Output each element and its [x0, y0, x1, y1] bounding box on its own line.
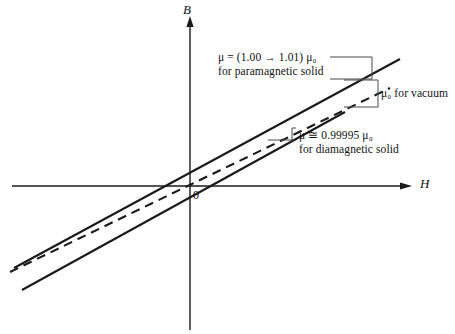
paramagnetic-annotation: μ = (1.00 → 1.01) μ₀ for paramagnetic so… — [218, 50, 324, 78]
diamagnetic-annotation-line2: for diamagnetic solid — [299, 142, 399, 156]
x-axis-arrowhead — [400, 182, 412, 189]
vacuum-annotation-line1: μ₀ for vacuum — [381, 86, 448, 100]
data-lines-group — [10, 59, 400, 290]
axes-group — [12, 16, 412, 330]
diamagnetic-line — [22, 112, 345, 290]
x-axis-label: H — [420, 176, 429, 192]
diamagnetic-annotation-line1: μ ≅ 0.99995 μ₀ — [299, 128, 399, 142]
diamagnetic-annotation: μ ≅ 0.99995 μ₀ for diamagnetic solid — [299, 128, 399, 156]
origin-label: 0 — [193, 188, 199, 203]
vacuum-line — [10, 88, 390, 272]
vacuum-annotation: μ₀ for vacuum — [381, 86, 448, 100]
y-axis-label: B — [183, 2, 191, 18]
vacuum-leader-bracket — [344, 80, 378, 107]
paramagnetic-annotation-line2: for paramagnetic solid — [218, 64, 324, 78]
paramagnetic-line — [14, 59, 400, 268]
paramagnetic-leader-bracket — [330, 57, 372, 79]
paramagnetic-annotation-line1: μ = (1.00 → 1.01) μ₀ — [218, 50, 324, 64]
magnetization-figure: B H 0 μ = (1.00 → 1.01) μ₀ for paramagne… — [0, 0, 455, 334]
